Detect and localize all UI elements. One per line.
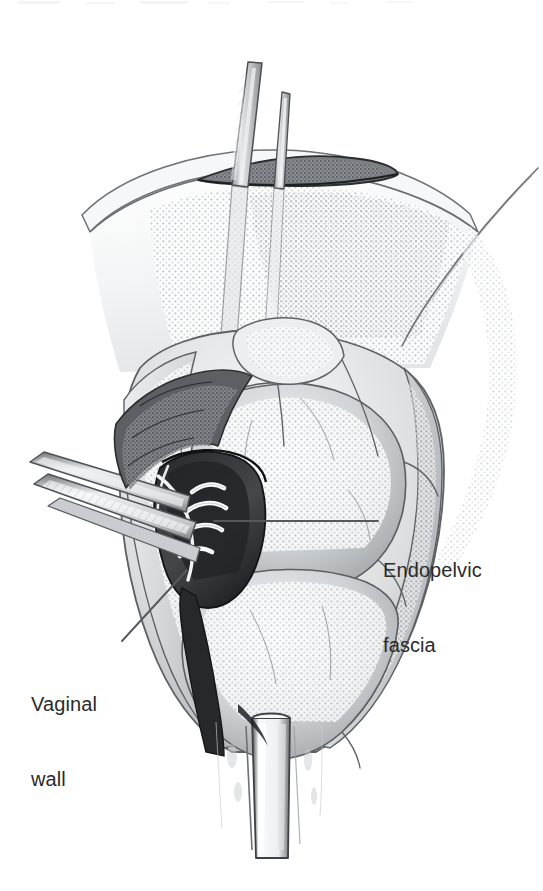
label-vaginal-wall: Vaginal wall [31,642,97,842]
label-endopelvic-fascia: Endopelvic fascia [383,508,482,708]
label-endopelvic-fascia-line2: fascia [383,633,482,658]
label-vaginal-wall-line2: wall [31,767,97,792]
label-vaginal-wall-line1: Vaginal [31,692,97,717]
surgical-illustration-figure: Endopelvic fascia Vaginal wall [0,0,543,891]
label-endopelvic-fascia-line1: Endopelvic [383,558,482,583]
